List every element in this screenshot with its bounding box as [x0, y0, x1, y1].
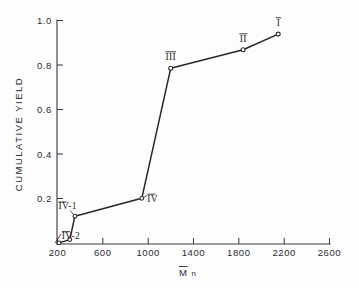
y-tick-label-4: 0.4: [37, 149, 52, 160]
point-annotations: I II III IV IV-1 IV-2: [55, 18, 281, 244]
x-tick-label-4: 1400: [182, 247, 206, 258]
point-label-IV: IV: [147, 194, 158, 204]
x-axis-ticks: [58, 238, 330, 244]
data-point-marker: [169, 66, 173, 70]
point-label-IV2: IV-2: [62, 231, 80, 241]
data-point-marker: [73, 214, 77, 218]
data-point-markers: [57, 32, 280, 245]
y-axis-title: CUMULATIVE YIELD: [13, 77, 24, 191]
y-tick-label-5: 0.2: [37, 193, 52, 204]
point-label-II: II: [240, 34, 247, 44]
x-tick-label-3: 1000: [136, 247, 160, 258]
x-axis-title: M n: [179, 267, 197, 278]
data-point-marker: [57, 241, 61, 245]
point-label-IV1: IV-1: [59, 201, 77, 211]
data-point-marker: [276, 32, 280, 36]
x-tick-label-5: 1800: [227, 247, 251, 258]
x-axis-title-m: M: [179, 267, 188, 278]
x-tick-label-1: 200: [49, 247, 67, 258]
x-axis-title-n: n: [192, 269, 197, 278]
data-series-line: [59, 34, 278, 243]
x-tick-label-6: 2200: [272, 247, 296, 258]
y-tick-label-3: 0.6: [37, 104, 52, 115]
data-point-marker: [140, 196, 144, 200]
point-label-I: I: [277, 18, 280, 28]
x-tick-label-7: 2600: [318, 247, 342, 258]
y-tick-label-2: 0.8: [37, 60, 52, 71]
data-point-marker: [241, 48, 245, 52]
x-axis-tick-labels: 200 600 1000 1400 1800 2200 2600: [49, 247, 342, 258]
y-axis-ticks: [57, 21, 63, 199]
y-tick-label-1: 1.0: [37, 15, 52, 26]
cumulative-yield-line-chart: 1.0 0.8 0.6 0.4 0.2 200 600 1000 1400 18…: [0, 0, 359, 288]
x-tick-label-2: 600: [94, 247, 112, 258]
chart-figure: 1.0 0.8 0.6 0.4 0.2 200 600 1000 1400 18…: [0, 0, 359, 288]
point-label-III: III: [165, 52, 175, 62]
y-axis-tick-labels: 1.0 0.8 0.6 0.4 0.2: [37, 15, 52, 204]
